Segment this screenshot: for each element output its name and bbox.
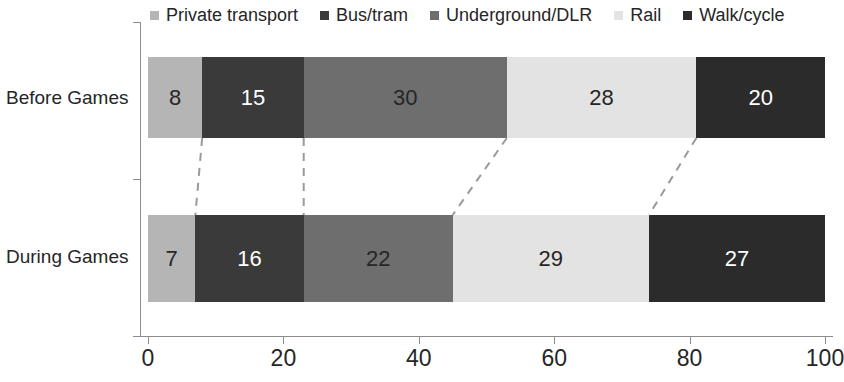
bar-segment: 15	[202, 57, 304, 138]
connector-line	[195, 138, 202, 215]
x-axis-tick	[283, 336, 284, 344]
legend-item-walk-cycle[interactable]: Walk/cycle	[683, 6, 784, 24]
x-axis-tick-label: 20	[271, 345, 297, 371]
category-label-during-games: During Games	[6, 246, 129, 268]
bar-segment: 30	[304, 57, 507, 138]
bar-segment-value: 16	[237, 247, 261, 271]
bar-segment-value: 27	[725, 247, 749, 271]
legend-item-underground-dlr[interactable]: Underground/DLR	[430, 6, 592, 24]
bar-segment: 28	[507, 57, 697, 138]
x-axis-tick	[554, 336, 555, 344]
legend-swatch-icon	[683, 11, 692, 20]
x-axis-tick	[148, 336, 149, 344]
bar-segment: 27	[649, 215, 825, 302]
x-axis-tick-label: 40	[406, 345, 432, 371]
x-axis-tick	[690, 336, 691, 344]
x-axis-tick	[419, 336, 420, 344]
bar-segment: 22	[304, 215, 453, 302]
bar-segment-value: 30	[393, 86, 417, 110]
x-axis-tick-label: 0	[142, 345, 155, 371]
legend-item-private-transport[interactable]: Private transport	[150, 6, 298, 24]
legend-label: Private transport	[166, 6, 298, 24]
bar-segment-value: 22	[366, 247, 390, 271]
x-axis-line	[140, 336, 833, 337]
x-axis-tick	[825, 336, 826, 344]
bar-segment-value: 29	[539, 247, 563, 271]
bar-segment-value: 15	[241, 86, 265, 110]
legend-swatch-icon	[320, 11, 329, 20]
legend-label: Walk/cycle	[699, 6, 784, 24]
bar-segment-value: 7	[166, 247, 178, 271]
x-axis-tick-label: 60	[541, 345, 567, 371]
bar-segment: 29	[453, 215, 649, 302]
y-axis-tick	[133, 22, 141, 23]
legend-swatch-icon	[614, 11, 623, 20]
bar-segment: 7	[148, 215, 195, 302]
connector-line	[453, 138, 507, 215]
bar-segment-value: 8	[169, 86, 181, 110]
legend-label: Underground/DLR	[446, 6, 592, 24]
bar-before-games: 815302820	[148, 57, 825, 138]
legend-item-bus-tram[interactable]: Bus/tram	[320, 6, 408, 24]
legend-label: Bus/tram	[336, 6, 408, 24]
bar-segment: 8	[148, 57, 202, 138]
bar-segment-value: 28	[589, 86, 613, 110]
legend-swatch-icon	[430, 11, 439, 20]
y-axis-tick	[133, 179, 141, 180]
x-axis-tick-label: 80	[677, 345, 703, 371]
x-axis-tick-label: 100	[806, 345, 844, 371]
chart-legend: Private transportBus/tramUnderground/DLR…	[150, 2, 835, 28]
legend-swatch-icon	[150, 11, 159, 20]
bar-segment-value: 20	[748, 86, 772, 110]
bar-segment: 16	[195, 215, 303, 302]
legend-label: Rail	[630, 6, 661, 24]
connector-line	[649, 138, 696, 215]
legend-item-rail[interactable]: Rail	[614, 6, 661, 24]
category-label-before-games: Before Games	[6, 87, 129, 109]
bar-segment: 20	[696, 57, 825, 138]
bar-during-games: 716222927	[148, 215, 825, 302]
